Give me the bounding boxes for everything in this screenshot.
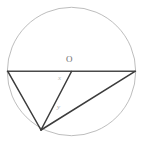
geometry-canvas [0,0,142,146]
geometry-figure: O x y [0,0,142,146]
center-point-label-O: O [66,55,73,64]
angle-label-y: y [57,104,60,111]
angle-label-x: x [58,75,61,82]
segment-chord-AC [8,71,41,130]
segment-chord-CB [41,71,135,130]
